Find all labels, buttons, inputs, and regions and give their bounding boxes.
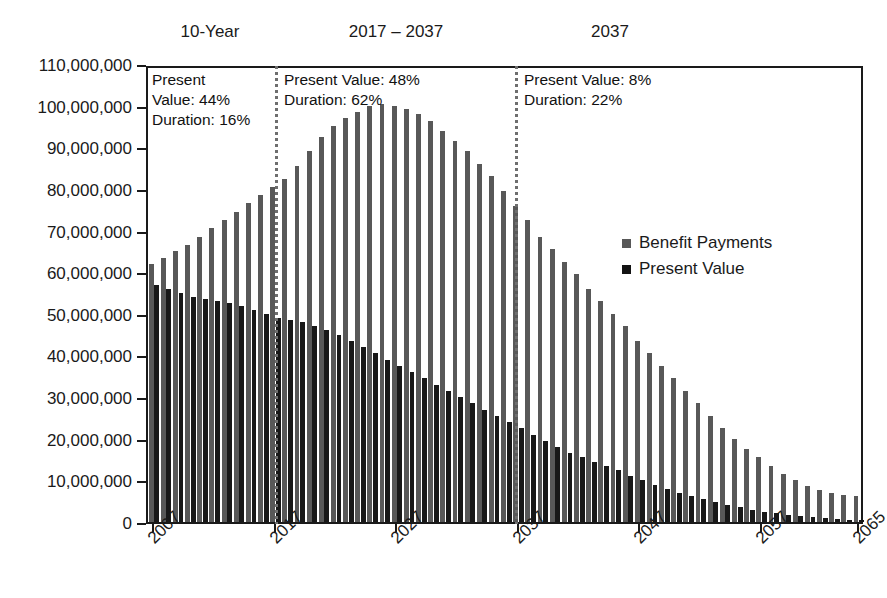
bar-present-value [713, 502, 718, 522]
y-axis-tick-label: 70,000,000 [47, 223, 132, 243]
bar-benefit-payments [428, 121, 433, 522]
bar-benefit-payments [744, 449, 749, 522]
bar-benefit-payments [355, 112, 360, 522]
bar-benefit-payments [343, 118, 348, 522]
bar-benefit-payments [671, 378, 676, 522]
legend-item-label: Present Value [639, 259, 745, 279]
bar-present-value [458, 397, 463, 522]
bar-benefit-payments [538, 237, 543, 522]
annotation-10-year: Present Value: 44% Duration: 16% [152, 70, 250, 129]
bar-present-value [179, 293, 184, 522]
bar-benefit-payments [720, 428, 725, 522]
bar-present-value [324, 330, 329, 522]
bar-benefit-payments [404, 109, 409, 522]
bar-present-value [300, 322, 305, 522]
bar-present-value [823, 518, 828, 522]
bar-present-value [312, 326, 317, 522]
y-axis-tick-mark [137, 148, 146, 150]
bar-benefit-payments [501, 191, 506, 522]
y-axis-tick-mark [137, 398, 146, 400]
bar-benefit-payments [805, 486, 810, 522]
bar-present-value [592, 462, 597, 522]
bar-benefit-payments [635, 341, 640, 522]
y-axis-tick-mark [137, 107, 146, 109]
bar-present-value [166, 289, 171, 522]
bar-benefit-payments [477, 164, 482, 522]
bar-benefit-payments [440, 131, 445, 522]
bar-benefit-payments [331, 126, 336, 522]
bar-benefit-payments [732, 439, 737, 522]
bar-present-value [288, 320, 293, 522]
bar-present-value [798, 516, 803, 522]
y-axis-tick-label: 100,000,000 [37, 98, 132, 118]
bar-present-value [227, 303, 232, 522]
bar-present-value [738, 507, 743, 522]
bar-present-value [519, 428, 524, 522]
bar-benefit-payments [574, 274, 579, 522]
y-axis-tick-label: 30,000,000 [47, 389, 132, 409]
divider-2017 [275, 66, 278, 524]
bar-present-value [191, 297, 196, 522]
bar-present-value [349, 341, 354, 522]
bar-present-value [750, 510, 755, 522]
bar-present-value [555, 447, 560, 522]
bar-benefit-payments [149, 264, 154, 522]
y-axis-tick-mark [137, 356, 146, 358]
bar-benefit-payments [185, 245, 190, 522]
bar-present-value [495, 416, 500, 522]
legend-swatch-icon [622, 265, 631, 274]
bar-benefit-payments [197, 237, 202, 522]
bar-benefit-payments [258, 195, 263, 522]
bar-benefit-payments [817, 490, 822, 522]
bar-benefit-payments [756, 457, 761, 522]
y-axis-tick-label: 80,000,000 [47, 181, 132, 201]
y-axis-tick-label: 0 [123, 514, 132, 534]
legend-swatch-icon [622, 239, 631, 248]
plot-area [146, 66, 863, 524]
section-header-2: 2017 – 2037 [349, 22, 444, 42]
bar-present-value [677, 493, 682, 522]
legend-item-benefit-payments: Benefit Payments [622, 232, 772, 254]
bar-benefit-payments [367, 106, 372, 522]
bar-benefit-payments [659, 366, 664, 522]
bar-benefit-payments [453, 141, 458, 522]
legend-item-label: Benefit Payments [639, 233, 772, 253]
bar-benefit-payments [586, 289, 591, 522]
bar-benefit-payments [793, 480, 798, 522]
bar-benefit-payments [234, 212, 239, 522]
bar-present-value [215, 301, 220, 522]
bar-present-value [482, 410, 487, 522]
bar-benefit-payments [319, 137, 324, 522]
y-axis-tick-label: 90,000,000 [47, 139, 132, 159]
bar-benefit-payments [295, 166, 300, 522]
bar-present-value [385, 360, 390, 522]
bar-benefit-payments [392, 106, 397, 522]
bar-benefit-payments [708, 416, 713, 522]
bar-present-value [154, 285, 159, 522]
bar-present-value [470, 403, 475, 522]
bar-present-value [725, 505, 730, 522]
bar-present-value [616, 470, 621, 522]
legend-item-present-value: Present Value [622, 258, 772, 280]
bar-benefit-payments [161, 258, 166, 522]
bar-series-container [148, 68, 861, 522]
bar-present-value [847, 520, 852, 522]
y-axis-tick-mark [137, 65, 146, 67]
bar-present-value [835, 519, 840, 522]
bar-present-value [446, 391, 451, 522]
section-header-1: 10-Year [181, 22, 240, 42]
bar-present-value [701, 499, 706, 522]
bar-present-value [361, 347, 366, 522]
bar-present-value [604, 466, 609, 522]
bar-present-value [203, 299, 208, 522]
chart-figure: 10-Year2017 – 20372037 110,000,000100,00… [0, 0, 887, 598]
bar-benefit-payments [623, 326, 628, 522]
y-axis-tick-mark [137, 232, 146, 234]
y-axis-tick-label: 20,000,000 [47, 431, 132, 451]
bar-benefit-payments [489, 176, 494, 522]
bar-benefit-payments [209, 228, 214, 522]
annotation-2037: Present Value: 8% Duration: 22% [524, 70, 651, 110]
divider-2037 [515, 66, 518, 524]
bar-present-value [239, 306, 244, 523]
y-axis-tick-label: 10,000,000 [47, 472, 132, 492]
